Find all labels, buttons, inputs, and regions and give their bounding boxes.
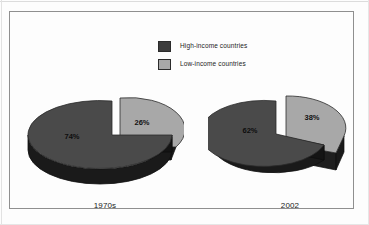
page-edge-left [1, 0, 2, 225]
legend-swatch-low-income-icon [158, 59, 171, 70]
chart-page: High-income countries Low-income countri… [0, 0, 369, 225]
pie-2002-svg: 62% 38% [208, 90, 353, 195]
chart-frame: High-income countries Low-income countri… [9, 11, 354, 209]
page-edge-bottom [0, 224, 369, 225]
pie-2002-label-high-income: 62% [242, 126, 257, 135]
chart-legend: High-income countries Low-income countri… [158, 38, 308, 74]
pie-chart-1970s: 74% 26% [24, 90, 184, 199]
pie-chart-2002: 62% 38% [208, 90, 353, 199]
pie-1970s-label-low-income: 26% [134, 118, 149, 127]
category-label-2002: 2002 [245, 201, 335, 210]
category-label-1970s: 1970s [60, 201, 150, 210]
page-edge-top [0, 1, 369, 2]
legend-label-high-income: High-income countries [180, 43, 247, 50]
legend-item-high-income: High-income countries [158, 38, 308, 54]
pie-1970s-label-high-income: 74% [64, 132, 79, 141]
legend-label-low-income: Low-income countries [180, 61, 246, 68]
pie-2002-label-low-income: 38% [304, 113, 319, 122]
legend-item-low-income: Low-income countries [158, 56, 308, 72]
pie-1970s-svg: 74% 26% [24, 90, 184, 195]
legend-swatch-high-income-icon [158, 41, 171, 52]
